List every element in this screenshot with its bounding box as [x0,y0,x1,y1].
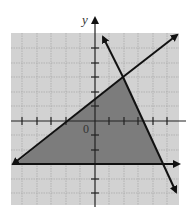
origin-label: 0 [83,122,89,137]
graph [0,0,188,207]
y-axis-label: y [82,12,88,28]
